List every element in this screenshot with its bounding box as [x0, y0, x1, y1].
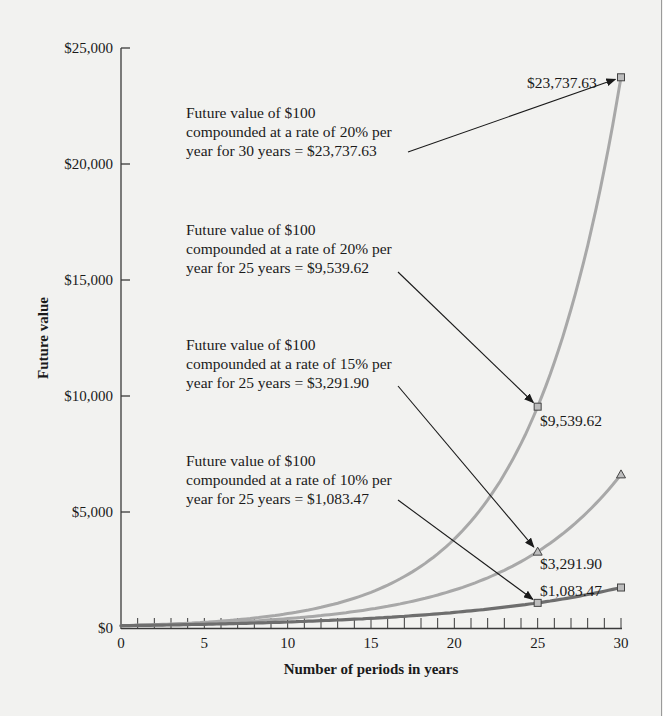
annotation-text-line: compounded at a rate of 10% per: [186, 471, 393, 488]
value-label: $23,737.63: [527, 74, 597, 91]
annotation-text-line: Future value of $100: [186, 336, 316, 353]
triangle-marker: [617, 470, 626, 478]
future-value-chart: $0$5,000$10,000$15,000$20,000$25,000 051…: [0, 0, 663, 716]
square-marker: [618, 584, 625, 591]
x-tick-label: 15: [364, 635, 379, 651]
value-label: $1,083.47: [540, 582, 602, 599]
annotation-text-line: Future value of $100: [186, 221, 316, 238]
x-tick-label: 10: [280, 635, 295, 651]
x-axis-title: Number of periods in years: [284, 661, 459, 677]
x-tick-label: 30: [614, 635, 629, 651]
square-marker: [534, 599, 541, 606]
annotation-arrow: [398, 386, 534, 547]
y-tick-label: $25,000: [64, 40, 113, 56]
annotation-text-line: compounded at a rate of 20% per: [186, 123, 393, 140]
annotation-text-line: year for 25 years = $9,539.62: [186, 259, 369, 276]
annotation-text-line: year for 25 years = $1,083.47: [186, 490, 369, 507]
square-marker: [534, 403, 541, 410]
y-tick-label: $0: [98, 620, 113, 636]
annotation-text-line: year for 30 years = $23,737.63: [186, 142, 377, 159]
annotation-arrow: [398, 272, 533, 403]
x-tick-label: 25: [530, 635, 545, 651]
y-tick-label: $15,000: [64, 272, 113, 288]
y-axis: $0$5,000$10,000$15,000$20,000$25,000: [64, 40, 130, 636]
annotation: Future value of $100compounded at a rate…: [186, 221, 602, 429]
annotation-text-line: Future value of $100: [186, 452, 316, 469]
annotation-text-line: compounded at a rate of 15% per: [186, 355, 393, 372]
annotation: Future value of $100compounded at a rate…: [186, 452, 602, 599]
y-axis-title: Future value: [35, 297, 51, 379]
x-tick-label: 0: [117, 635, 125, 651]
annotation-layer: Future value of $100compounded at a rate…: [186, 74, 615, 599]
annotation-arrow: [398, 500, 533, 599]
y-tick-label: $20,000: [64, 156, 113, 172]
value-label: $3,291.90: [540, 555, 602, 572]
annotation: Future value of $100compounded at a rate…: [186, 74, 615, 159]
value-label: $9,539.62: [540, 412, 602, 429]
annotation-text-line: compounded at a rate of 20% per: [186, 240, 393, 257]
annotation-text-line: Future value of $100: [186, 104, 316, 121]
y-tick-label: $10,000: [64, 388, 113, 404]
x-tick-label: 20: [447, 635, 462, 651]
y-tick-label: $5,000: [72, 504, 113, 520]
square-marker: [618, 74, 625, 81]
x-tick-label: 5: [201, 635, 209, 651]
annotation-text-line: year for 25 years = $3,291.90: [186, 374, 369, 391]
